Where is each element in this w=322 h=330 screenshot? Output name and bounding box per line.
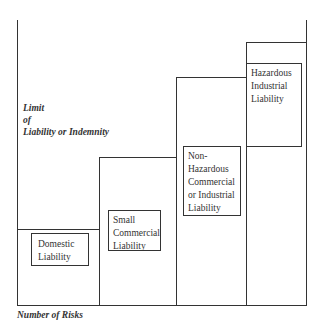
box-line: Commercial [188, 176, 236, 189]
hazardous-industrial-liability-box: Hazardous Industrial Liability [246, 63, 302, 147]
small-commercial-liability-box: Small Commercial Liability [108, 210, 161, 251]
box-line: Small [113, 214, 156, 227]
box-line: Industrial [251, 80, 297, 93]
y-axis-line [17, 20, 18, 306]
x-axis-line [17, 305, 307, 306]
box-line: Non- [188, 150, 236, 163]
step-2-top [99, 157, 176, 158]
step-1-right [99, 157, 100, 306]
box-line: Domestic [38, 238, 82, 251]
box-line: Liability [251, 93, 297, 106]
box-line: Liability [188, 202, 236, 215]
box-line: Hazardous [251, 67, 297, 80]
right-frame-line [306, 20, 307, 306]
box-line: Liability [38, 251, 82, 264]
box-line: Commercial [113, 227, 156, 240]
y-label-line: Liability or Indemnity [23, 126, 109, 138]
box-line: Hazardous [188, 163, 236, 176]
y-label-line: Limit [23, 102, 109, 114]
non-hazardous-liability-box: Non- Hazardous Commercial or Industrial … [183, 146, 241, 216]
step-3-top [176, 77, 246, 78]
step-1-top [17, 229, 99, 230]
step-2-right [176, 77, 177, 306]
y-axis-label: Limit of Liability or Indemnity [23, 102, 109, 138]
step-4-top [246, 42, 307, 43]
box-line: Liability [113, 240, 156, 253]
x-axis-label: Number of Risks [17, 309, 83, 321]
domestic-liability-box: Domestic Liability [31, 233, 89, 266]
y-label-line: of [23, 114, 109, 126]
box-line: or Industrial [188, 189, 236, 202]
